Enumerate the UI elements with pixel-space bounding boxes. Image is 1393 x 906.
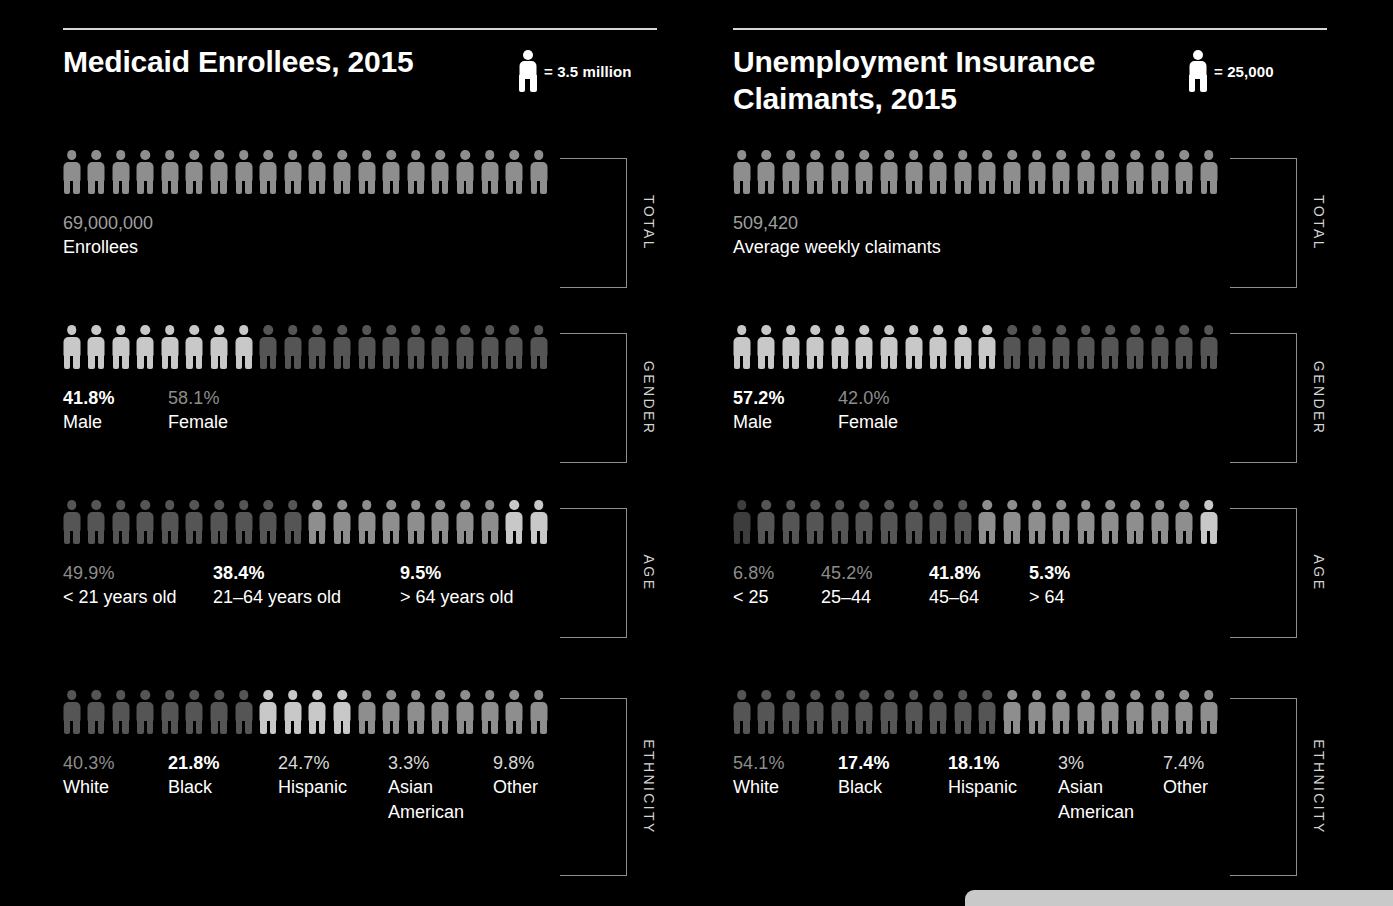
segment-value: 69,000,000 [63, 211, 153, 235]
segment-label: 9.5%> 64 years old [400, 561, 514, 610]
segment-label: 24.7%Hispanic [278, 751, 347, 800]
person-icon [383, 325, 400, 369]
person-icon [530, 690, 547, 734]
person-icon [831, 690, 848, 734]
person-icon [260, 325, 277, 369]
person-icon [260, 690, 277, 734]
person-icon [211, 690, 228, 734]
person-icon [758, 150, 775, 194]
segment-value: 9.8% [493, 751, 538, 775]
person-icon [1004, 325, 1021, 369]
segment-value: 54.1% [733, 751, 785, 775]
segment-name: < 25 [733, 585, 774, 610]
person-icon [831, 325, 848, 369]
person-icon [807, 500, 824, 544]
person-icon [211, 150, 228, 194]
person-icon [432, 500, 449, 544]
person-icon [284, 500, 301, 544]
segment-name: Male [733, 410, 785, 435]
person-icon [481, 150, 498, 194]
person-icon [1200, 500, 1217, 544]
segment-label: 41.8%45–64 [929, 561, 981, 610]
person-icon [1176, 690, 1193, 734]
person-icon [856, 500, 873, 544]
person-icon [1151, 150, 1168, 194]
segment-label: 5.3%> 64 [1029, 561, 1070, 610]
person-icon [235, 500, 252, 544]
person-icon [979, 500, 996, 544]
person-icon [1004, 690, 1021, 734]
segment-value: 9.5% [400, 561, 514, 585]
segment-label: 9.8%Other [493, 751, 538, 800]
person-icon [506, 325, 523, 369]
person-icon [186, 325, 203, 369]
pictogram-row-total: 69,000,000EnrolleesTOTAL [63, 150, 663, 287]
person-icon [358, 690, 375, 734]
person-icon [733, 690, 750, 734]
segment-name: Black [838, 775, 890, 800]
segment-value: 24.7% [278, 751, 347, 775]
legend-unit-label: = 3.5 million [544, 63, 632, 80]
segment-name: Female [168, 410, 228, 435]
panel-header: Medicaid Enrollees, 2015 = 3.5 million [63, 44, 663, 128]
segment-value: 58.1% [168, 386, 228, 410]
segment-label: 57.2%Male [733, 386, 785, 435]
person-icon [309, 690, 326, 734]
person-icon [782, 150, 799, 194]
person-icon [518, 50, 537, 92]
person-icon [407, 150, 424, 194]
person-icon [831, 500, 848, 544]
segment-name: Other [1163, 775, 1208, 800]
person-icon [1028, 150, 1045, 194]
segment-name: 25–44 [821, 585, 873, 610]
segment-name: > 64 years old [400, 585, 514, 610]
segment-value: 41.8% [63, 386, 115, 410]
person-icon [782, 690, 799, 734]
person-icon [930, 690, 947, 734]
person-icon [88, 150, 105, 194]
person-icon [856, 325, 873, 369]
person-icon [334, 500, 351, 544]
person-icon [506, 690, 523, 734]
person-icon [334, 325, 351, 369]
person-icon [831, 150, 848, 194]
person-icon [905, 500, 922, 544]
person-icon [1200, 690, 1217, 734]
category-label-total: TOTAL [1311, 195, 1327, 251]
person-icon [1028, 690, 1045, 734]
segment-value: 40.3% [63, 751, 115, 775]
person-icon [954, 325, 971, 369]
category-label-age: AGE [1311, 555, 1327, 592]
person-icon [1053, 500, 1070, 544]
person-icon [1151, 500, 1168, 544]
legend-unit-label: = 25,000 [1214, 63, 1274, 80]
segment-name: < 21 years old [63, 585, 177, 610]
legend-unemployment: = 25,000 [1188, 50, 1274, 92]
person-icon [1028, 500, 1045, 544]
bottom-accent-bar [965, 890, 1393, 906]
person-icon [481, 500, 498, 544]
person-icon [63, 690, 80, 734]
segment-label: 69,000,000Enrollees [63, 211, 153, 260]
person-icon [930, 500, 947, 544]
person-icon [407, 325, 424, 369]
pictogram-row-gender: 41.8%Male58.1%FemaleGENDER [63, 325, 663, 462]
person-icon [407, 690, 424, 734]
segment-name: Average weekly claimants [733, 235, 941, 260]
category-bracket [560, 333, 627, 463]
category-bracket [1230, 158, 1297, 288]
person-icon [1102, 325, 1119, 369]
segment-label: 58.1%Female [168, 386, 228, 435]
segment-label: 45.2%25–44 [821, 561, 873, 610]
person-icon [930, 325, 947, 369]
person-icon [186, 150, 203, 194]
person-icon [1176, 150, 1193, 194]
person-icon [407, 500, 424, 544]
person-icon [63, 325, 80, 369]
person-icon [457, 325, 474, 369]
segment-name: Male [63, 410, 115, 435]
person-icon [733, 150, 750, 194]
pictogram-row-ethnicity: 54.1%White17.4%Black18.1%Hispanic3%Asian… [733, 690, 1333, 827]
panel-header: Unemployment Insurance Claimants, 2015 =… [733, 44, 1333, 128]
person-icon [1004, 500, 1021, 544]
